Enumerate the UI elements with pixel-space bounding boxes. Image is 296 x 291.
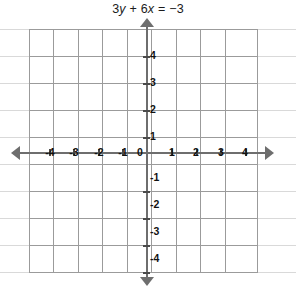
y-axis-tick — [143, 137, 150, 139]
y-axis — [146, 23, 148, 283]
y-tick-label--3: -3 — [150, 226, 170, 237]
x-tick-label-1: 1 — [162, 147, 182, 158]
x-tick-label-2: 2 — [186, 147, 206, 158]
x-tick-label-4: 4 — [235, 147, 255, 158]
x-axis-left-arrow-icon — [11, 146, 20, 160]
y-axis-tick — [143, 110, 150, 112]
y-tick-label-1: 1 — [150, 131, 170, 142]
equation-plus-operator: + — [126, 2, 141, 16]
equation-title: 3y + 6x = −3 — [0, 2, 296, 16]
y-axis-down-arrow-icon — [140, 277, 154, 286]
grid-line-horizontal — [29, 164, 258, 165]
y-axis-tick — [143, 218, 150, 220]
y-tick-label-3: 3 — [150, 77, 170, 88]
y-axis-up-arrow-icon — [140, 18, 154, 27]
grid-line-vertical — [257, 29, 258, 273]
y-axis-tick — [143, 83, 150, 85]
x-tick-label--2: -2 — [89, 147, 109, 158]
y-tick-label--1: -1 — [150, 172, 170, 183]
y-axis-tick — [143, 245, 150, 247]
y-tick-label-4: 4 — [150, 50, 170, 61]
x-tick-label-3: 3 — [211, 147, 231, 158]
grid-line-vertical — [29, 29, 30, 273]
y-tick-label-2: 2 — [150, 104, 170, 115]
y-axis-tick — [143, 56, 150, 58]
y-axis-tick — [143, 272, 150, 274]
x-tick-label--3: -3 — [64, 147, 84, 158]
coordinate-grid-figure: 3y + 6x = −3 — [0, 0, 296, 291]
origin-label: 0 — [137, 147, 143, 158]
grid-line-horizontal — [29, 29, 258, 30]
y-tick-label--2: -2 — [150, 199, 170, 210]
equation-right-side: −3 — [169, 2, 184, 16]
y-tick-label--4: -4 — [150, 253, 170, 264]
equation-coefficient-x: 6 — [141, 2, 148, 16]
x-tick-label--4: -4 — [40, 147, 60, 158]
x-axis-right-arrow-icon — [265, 146, 274, 160]
y-axis-tick — [143, 191, 150, 193]
equation-equals-operator: = — [154, 2, 169, 16]
x-tick-label--1: -1 — [113, 147, 133, 158]
